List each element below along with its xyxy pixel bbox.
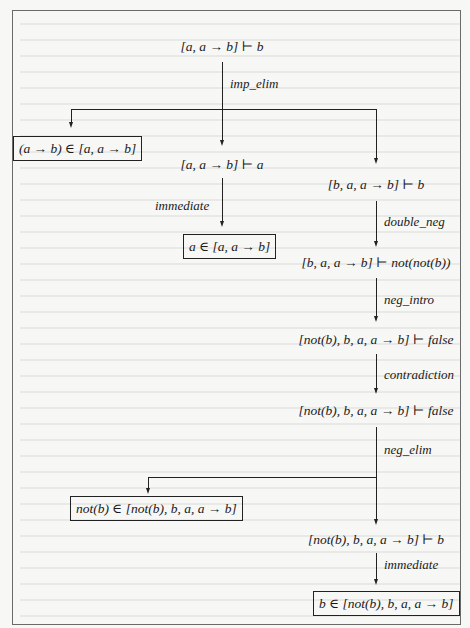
neg-elim-split-line [148, 477, 377, 478]
arrow-down-icon [374, 316, 378, 322]
neg-elim-edge [376, 427, 377, 520]
double-neg-edge [376, 201, 377, 242]
middle-immediate-edge [222, 178, 223, 222]
root-sequent: [a, a → b] ⊢ b [181, 39, 264, 55]
imp-elim-split-line [71, 109, 377, 110]
rule-double-neg: double_neg [384, 214, 445, 229]
root-edge [222, 62, 223, 109]
leaf-box-a-member: a ∈ [a, a → b] [183, 234, 276, 259]
left-branch-edge [71, 109, 72, 123]
rule-neg-elim: neg_elim [384, 442, 432, 457]
arrow-down-icon [220, 221, 224, 227]
sequent-not-not-b: [b, a, a → b] ⊢ not(not(b)) [302, 255, 451, 271]
leaf-box-a-implies-b: (a → b) ∈ [a, a → b] [13, 136, 142, 161]
leaf-box-b-member: b ∈ [not(b), b, a, a → b] [313, 591, 460, 616]
arrow-down-icon [146, 488, 150, 494]
arrow-down-icon [69, 122, 73, 128]
rule-immediate-final: immediate [384, 557, 438, 572]
rule-imp-elim: imp_elim [230, 76, 278, 91]
arrow-down-icon [374, 579, 378, 585]
arrow-down-icon [374, 388, 378, 394]
arrow-down-icon [374, 519, 378, 525]
arrow-down-icon [374, 158, 378, 164]
sequent-false-1: [not(b), b, a, a → b] ⊢ false [299, 332, 454, 348]
middle-branch-edge [222, 109, 223, 141]
sequent-b-final: [not(b), b, a, a → b] ⊢ b [308, 532, 444, 548]
rule-immediate-middle: immediate [155, 198, 209, 213]
sequent-b-b: [b, a, a → b] ⊢ b [328, 177, 424, 193]
right-branch-edge [376, 109, 377, 159]
sequent-false-2: [not(b), b, a, a → b] ⊢ false [299, 403, 454, 419]
leaf-box-not-b-member: not(b) ∈ [not(b), b, a, a → b] [70, 496, 243, 521]
sequent-a: [a, a → b] ⊢ a [181, 157, 264, 173]
immediate-final-edge [376, 553, 377, 580]
arrow-down-icon [374, 241, 378, 247]
neg-intro-edge [376, 278, 377, 317]
contradiction-edge [376, 354, 377, 389]
rule-contradiction: contradiction [384, 367, 454, 382]
rule-neg-intro: neg_intro [384, 292, 434, 307]
arrow-down-icon [220, 140, 224, 146]
